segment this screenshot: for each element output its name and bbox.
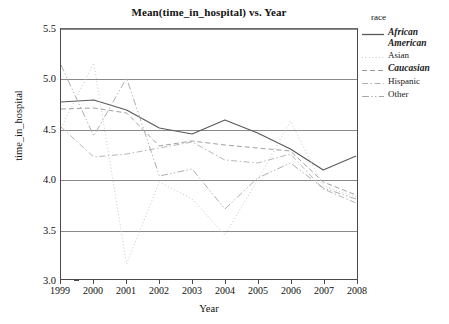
legend-item[interactable]: Asian xyxy=(362,50,448,62)
x-tick-mark xyxy=(93,280,94,284)
x-tick-mark xyxy=(225,280,226,284)
legend-line-swatch xyxy=(362,30,384,39)
y-tick-label: 3.5 xyxy=(20,224,56,235)
legend-items: African AmericanAsianCaucasianHispanicOt… xyxy=(362,27,448,101)
chart-title: Mean(time_in_hospital) vs. Year xyxy=(60,6,358,18)
x-tick-mark xyxy=(357,280,358,284)
x-tick-mark xyxy=(258,280,259,284)
legend-line-swatch xyxy=(362,92,384,101)
legend: race African AmericanAsianCaucasianHispa… xyxy=(362,12,448,102)
x-tick-mark xyxy=(159,280,160,284)
series-lines xyxy=(61,29,357,279)
x-tick-mark xyxy=(291,280,292,284)
y-tick-label: 3.0 xyxy=(20,275,56,286)
series-line xyxy=(61,65,356,209)
legend-item[interactable]: Hispanic xyxy=(362,76,448,88)
legend-item-label: African American xyxy=(388,27,448,49)
legend-item-label: Hispanic xyxy=(388,76,420,87)
x-tick-mark xyxy=(60,280,61,284)
y-tick-label: 4.5 xyxy=(20,123,56,134)
x-tick-mark xyxy=(192,280,193,284)
x-tick-label: 2008 xyxy=(337,285,377,296)
x-tick-mark xyxy=(324,280,325,284)
legend-item-label: Caucasian xyxy=(388,63,430,74)
y-tick-label: 5.0 xyxy=(20,73,56,84)
legend-item[interactable]: African American xyxy=(362,27,448,49)
x-tick-mark xyxy=(126,280,127,284)
series-line xyxy=(61,127,356,203)
chart-root: Mean(time_in_hospital) vs. Year time_in_… xyxy=(0,0,449,324)
legend-line-swatch xyxy=(362,53,384,62)
legend-item-label: Other xyxy=(388,89,409,100)
legend-line-swatch xyxy=(362,79,384,88)
y-tick-label: 4.0 xyxy=(20,174,56,185)
legend-item[interactable]: Other xyxy=(362,89,448,101)
series-line xyxy=(61,63,356,264)
legend-line-swatch xyxy=(362,66,384,75)
x-axis-title: Year xyxy=(60,303,358,314)
plot-area xyxy=(60,28,358,280)
legend-title: race xyxy=(371,12,448,22)
y-axis-ticks: 3.03.54.04.55.05.5 xyxy=(16,28,56,280)
legend-item-label: Asian xyxy=(388,50,409,61)
x-axis-ticks: 1999200020012002200320042005200620072008 xyxy=(60,280,358,304)
y-tick-label: 5.5 xyxy=(20,23,56,34)
legend-item[interactable]: Caucasian xyxy=(362,63,448,75)
